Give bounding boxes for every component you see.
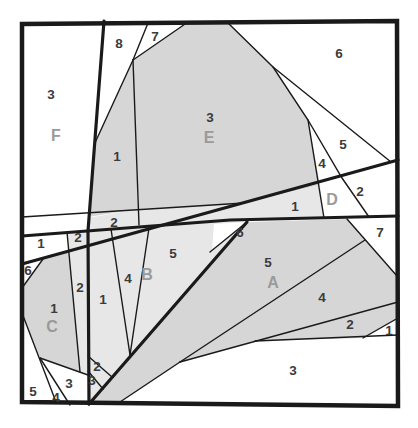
region-number-label-26: 1 [50,301,58,316]
region-number-label-29: 2 [346,317,354,332]
region-number-label-28: 4 [318,290,326,305]
region-number-label-10: 2 [356,184,364,199]
zone-letter-label-11: D [326,191,338,208]
region-number-label-9: 4 [318,156,326,171]
region-number-label-32: 3 [289,363,297,378]
region-number-label-3: 3 [47,87,55,102]
region-number-label-18: 7 [376,225,384,240]
zone-letter-label-27: C [46,318,58,335]
region-number-label-13: 2 [110,215,118,230]
region-number-label-5: 3 [206,110,214,125]
zone-letter-label-6: E [204,129,215,146]
page: 8763F3E1542D12216675B45A211C421233354 [0,0,418,428]
zone-letter-label-4: F [51,127,61,144]
region-number-label-34: 3 [88,373,96,388]
region-number-label-7: 1 [113,149,121,164]
region-number-label-12: 1 [291,199,299,214]
region-number-label-31: 2 [93,359,101,374]
region-number-label-16: 6 [24,263,32,278]
zone-letter-label-20: B [141,266,153,283]
region-number-label-24: 2 [76,280,84,295]
region-number-label-21: 4 [124,271,132,286]
puzzle-svg: 8763F3E1542D12216675B45A211C421233354 [0,0,418,428]
region-number-label-25: 1 [99,292,107,307]
region-number-label-30: 1 [385,323,393,338]
region-number-label-19: 5 [169,246,177,261]
region-number-label-22: 5 [264,255,272,270]
region-number-label-0: 8 [115,36,123,51]
region-number-label-36: 4 [52,390,60,405]
region-number-label-2: 6 [335,46,343,61]
region-number-label-35: 5 [29,384,37,399]
region-number-label-14: 2 [74,230,82,245]
zone-letter-label-23: A [267,274,279,291]
region-number-label-17: 6 [236,225,244,240]
region-number-label-1: 7 [151,29,159,44]
region-number-label-15: 1 [37,236,45,251]
region-number-label-33: 3 [65,376,73,391]
puzzle-figure: 8763F3E1542D12216675B45A211C421233354 [0,0,418,428]
region-number-label-8: 5 [339,137,347,152]
